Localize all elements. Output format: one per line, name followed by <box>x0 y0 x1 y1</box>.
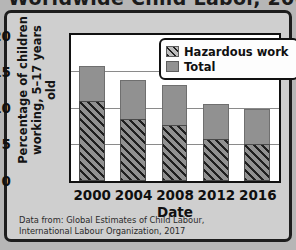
chart-panel: Percentage of children working, 5–17 yea… <box>4 10 292 242</box>
legend: Hazardous work Total <box>159 38 296 80</box>
x-axis-tick: 2000 <box>73 187 111 203</box>
bar-segment-hazardous <box>120 119 146 181</box>
bar-segment-hazardous <box>203 139 229 181</box>
bar-group <box>79 66 105 181</box>
legend-item-hazardous-work: Hazardous work <box>166 44 289 59</box>
legend-swatch-hazardous-icon <box>166 46 179 57</box>
bar-group <box>203 104 229 181</box>
y-axis-title-line1: Percentage of children <box>16 16 30 164</box>
legend-label-total: Total <box>184 60 215 74</box>
legend-item-total: Total <box>166 59 289 74</box>
y-axis-tick: 15 <box>0 64 11 80</box>
x-axis-tick: 2012 <box>198 187 236 203</box>
figure: Percentage of children working, 5–17 yea… <box>7 13 289 239</box>
y-axis-tick: 0 <box>0 173 11 189</box>
source-caption-line1: Data from: Global Estimates of Child Lab… <box>19 215 204 226</box>
y-axis-title: Percentage of children working, 5–17 yea… <box>17 14 57 166</box>
clipped-title: Worldwide Child Labor, 2000–2016 <box>0 0 296 9</box>
bar-segment-hazardous <box>162 125 188 181</box>
y-axis-tick: 20 <box>0 28 11 44</box>
legend-label-hazardous: Hazardous work <box>184 45 289 59</box>
y-axis-tick: 10 <box>0 100 11 116</box>
x-axis-tick: 2016 <box>239 187 277 203</box>
bar-group <box>120 80 146 182</box>
y-axis-tick: 5 <box>0 136 11 152</box>
source-caption-line2: International Labour Organization, 2017 <box>19 226 204 237</box>
x-axis-tick: 2008 <box>156 187 194 203</box>
clipped-title-text: Worldwide Child Labor, 2000–2016 <box>8 0 296 9</box>
x-axis-tick: 2004 <box>115 187 153 203</box>
legend-swatch-total-icon <box>166 61 179 72</box>
bar-group <box>162 85 188 181</box>
bar-segment-hazardous <box>244 144 270 181</box>
source-caption: Data from: Global Estimates of Child Lab… <box>19 215 204 237</box>
y-axis-title-line2: working, 5–17 years old <box>30 14 58 166</box>
bar-group <box>244 109 270 181</box>
bar-segment-hazardous <box>79 101 105 181</box>
